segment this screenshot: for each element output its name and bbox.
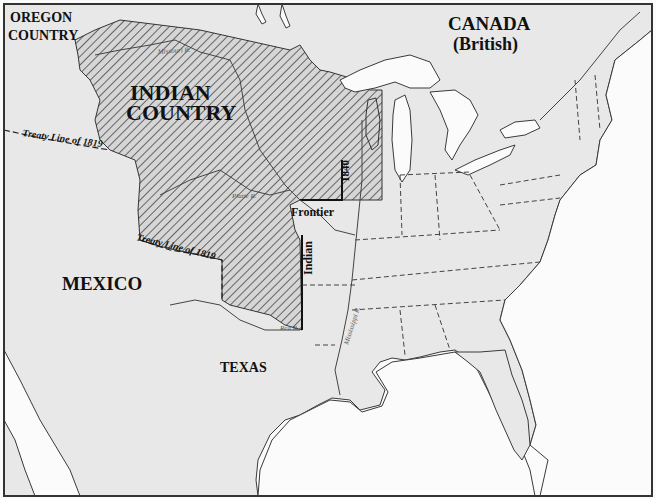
texas-label: TEXAS (220, 360, 267, 375)
frontier-label: Frontier (291, 205, 335, 219)
oregon-country-label-1: OREGON (10, 10, 72, 25)
lake-michigan (392, 95, 412, 182)
mexico-label: MEXICO (62, 273, 142, 294)
indian-label: Indian (301, 241, 315, 275)
red-river-label: Red R. (279, 324, 299, 332)
platte-river-label: Platte R. (231, 192, 257, 200)
canada-label: CANADA (448, 13, 531, 34)
historical-map: OREGON COUNTRY CANADA (British) INDIAN C… (0, 0, 656, 499)
frontier-year-label: 1840 (339, 160, 351, 183)
oregon-country-label-2: COUNTRY (8, 28, 78, 43)
canada-british-label: (British) (453, 34, 518, 55)
indian-country-label-2: COUNTRY (126, 100, 237, 125)
